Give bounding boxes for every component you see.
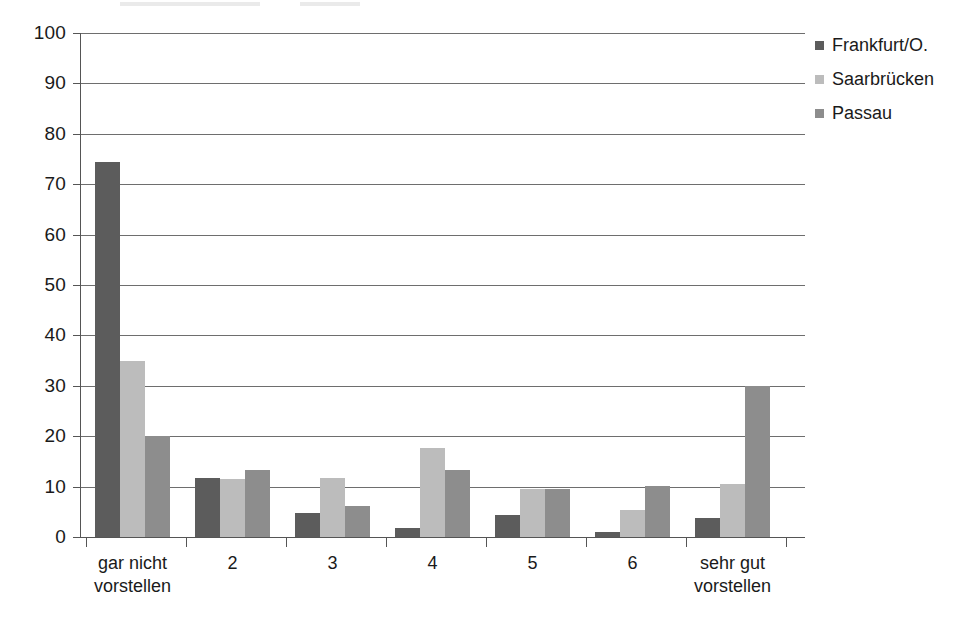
y-axis-tick-label: 10 [18, 477, 66, 496]
legend-item-label: Passau [832, 104, 892, 122]
legend-item-label: Frankfurt/O. [832, 36, 928, 54]
chart-legend: Frankfurt/O.SaarbrückenPassau [815, 30, 960, 132]
plot-area [81, 33, 805, 537]
x-axis-category-label-line1: sehr gut [663, 552, 803, 575]
x-axis-tick [86, 538, 87, 547]
legend-item-label: Saarbrücken [832, 70, 934, 88]
bar [545, 489, 570, 537]
legend-item: Frankfurt/O. [815, 30, 960, 60]
y-axis-tick [73, 184, 81, 185]
y-axis-tick-label: 50 [18, 275, 66, 294]
bar [695, 518, 720, 537]
bar [520, 489, 545, 537]
bar [95, 162, 120, 537]
bar-group [395, 33, 495, 537]
y-axis-labels: 0102030405060708090100 [0, 0, 66, 631]
y-axis-tick [73, 436, 81, 437]
bar [495, 515, 520, 537]
bar-group [95, 33, 195, 537]
y-axis-tick [73, 537, 81, 538]
legend-swatch-icon [815, 41, 824, 50]
bar [320, 478, 345, 537]
x-axis-tick [386, 538, 387, 547]
bar [220, 479, 245, 537]
bar [620, 510, 645, 537]
y-axis-tick [73, 33, 81, 34]
y-axis-tick-label: 60 [18, 225, 66, 244]
x-axis-tick [486, 538, 487, 547]
x-axis-tick [586, 538, 587, 547]
bar [295, 513, 320, 537]
bar [345, 506, 370, 537]
y-axis-tick-label: 100 [18, 23, 66, 42]
bar [245, 470, 270, 537]
legend-item: Passau [815, 98, 960, 128]
bar [145, 436, 170, 537]
bar-chart: 0102030405060708090100 gar nichtvorstell… [0, 0, 960, 631]
y-axis-tick-label: 40 [18, 325, 66, 344]
y-axis-tick [73, 335, 81, 336]
x-axis-tick [786, 538, 787, 547]
bar [395, 528, 420, 537]
bar [420, 448, 445, 537]
x-axis-tick [686, 538, 687, 547]
bar [445, 470, 470, 537]
bar-group [695, 33, 795, 537]
y-axis-tick [73, 235, 81, 236]
bar [645, 486, 670, 537]
legend-swatch-icon [815, 75, 824, 84]
y-axis-tick-label: 80 [18, 124, 66, 143]
bar [195, 478, 220, 537]
bar [120, 361, 145, 537]
y-axis-tick-label: 20 [18, 426, 66, 445]
bar-group [295, 33, 395, 537]
scan-artifact-left [120, 2, 260, 6]
y-axis-tick-label: 0 [18, 527, 66, 546]
x-axis-category-label-line2: vorstellen [63, 575, 203, 598]
x-axis-tick [286, 538, 287, 547]
bar-group [495, 33, 595, 537]
y-axis-tick [73, 134, 81, 135]
legend-item: Saarbrücken [815, 64, 960, 94]
legend-swatch-icon [815, 109, 824, 118]
x-axis-category-label-line2: vorstellen [663, 575, 803, 598]
y-axis-tick-label: 30 [18, 376, 66, 395]
bar [745, 386, 770, 537]
bar-group [595, 33, 695, 537]
y-axis-tick [73, 487, 81, 488]
bar [595, 532, 620, 537]
x-axis-category-label: sehr gutvorstellen [663, 552, 803, 598]
y-axis-tick [73, 285, 81, 286]
bar [720, 484, 745, 537]
axis-baseline [81, 537, 805, 538]
bar-group [195, 33, 295, 537]
y-axis-tick [73, 83, 81, 84]
y-axis-tick-label: 70 [18, 174, 66, 193]
scan-artifact-right [300, 2, 360, 6]
y-axis-tick-label: 90 [18, 73, 66, 92]
y-axis-tick [73, 386, 81, 387]
x-axis-tick [186, 538, 187, 547]
